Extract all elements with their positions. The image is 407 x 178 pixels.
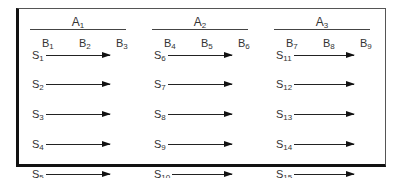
arrow-right-icon <box>168 144 232 145</box>
row-label: S4 <box>32 137 44 151</box>
group-header-rule <box>274 29 370 30</box>
row-label: S15 <box>276 167 292 178</box>
row-label: S7 <box>154 77 166 91</box>
row-label: S14 <box>276 137 292 151</box>
arrow-right-icon <box>168 114 232 115</box>
flow-row: S13 <box>276 107 368 121</box>
flow-row: S2 <box>32 77 124 91</box>
flow-row: S10 <box>154 167 246 178</box>
arrow-right-icon <box>46 114 110 115</box>
group-header: A1 <box>30 15 126 29</box>
row-label: S1 <box>32 48 44 62</box>
flow-row: S14 <box>276 137 368 151</box>
arrow-right-icon <box>294 55 354 56</box>
group-header: A2 <box>152 15 248 29</box>
flow-row: S8 <box>154 107 246 121</box>
arrow-right-icon <box>168 55 232 56</box>
flow-row: S7 <box>154 77 246 91</box>
flow-row: S3 <box>32 107 124 121</box>
arrow-right-icon <box>294 114 354 115</box>
flow-row: S15 <box>276 167 368 178</box>
group-header: A3 <box>274 15 370 29</box>
arrow-right-icon <box>46 174 110 175</box>
arrow-right-icon <box>46 84 110 85</box>
flow-row: S12 <box>276 77 368 91</box>
group-header-rule <box>152 29 248 30</box>
row-label: S8 <box>154 107 166 121</box>
group-header-rule <box>30 29 126 30</box>
row-label: S11 <box>276 48 292 62</box>
arrow-right-icon <box>46 55 110 56</box>
flow-row: S11 <box>276 48 368 62</box>
row-label: S2 <box>32 77 44 91</box>
arrow-right-icon <box>172 174 232 175</box>
row-label: S12 <box>276 77 292 91</box>
row-label: S9 <box>154 137 166 151</box>
arrow-right-icon <box>168 84 232 85</box>
arrow-right-icon <box>46 144 110 145</box>
arrow-right-icon <box>294 144 354 145</box>
arrow-right-icon <box>294 84 354 85</box>
row-label: S10 <box>154 167 170 178</box>
flow-row: S6 <box>154 48 246 62</box>
row-label: S5 <box>32 167 44 178</box>
row-label: S13 <box>276 107 292 121</box>
row-label: S3 <box>32 107 44 121</box>
row-label: S6 <box>154 48 166 62</box>
flow-row: S9 <box>154 137 246 151</box>
flow-row: S1 <box>32 48 124 62</box>
flow-row: S5 <box>32 167 124 178</box>
arrow-right-icon <box>294 174 354 175</box>
flow-row: S4 <box>32 137 124 151</box>
